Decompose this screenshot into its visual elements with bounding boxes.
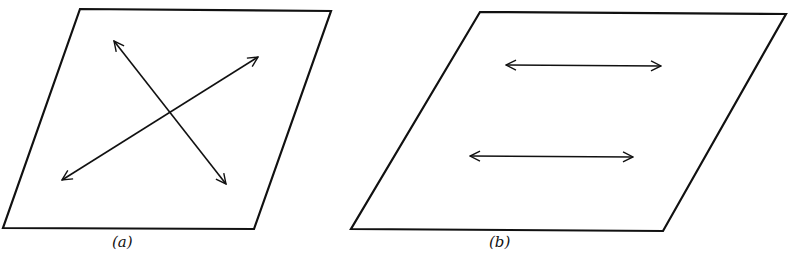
panel-b [351,12,786,231]
double-arrow-icon [470,156,633,157]
parallelogram-plane [3,9,331,229]
double-arrow-icon [506,65,661,66]
panel-a [3,9,331,229]
figure-canvas [0,0,792,272]
double-arrow-icon [62,57,258,180]
parallelogram-plane [351,12,786,231]
panel-a-label: (a) [112,233,133,251]
panel-b-label: (b) [489,233,510,251]
